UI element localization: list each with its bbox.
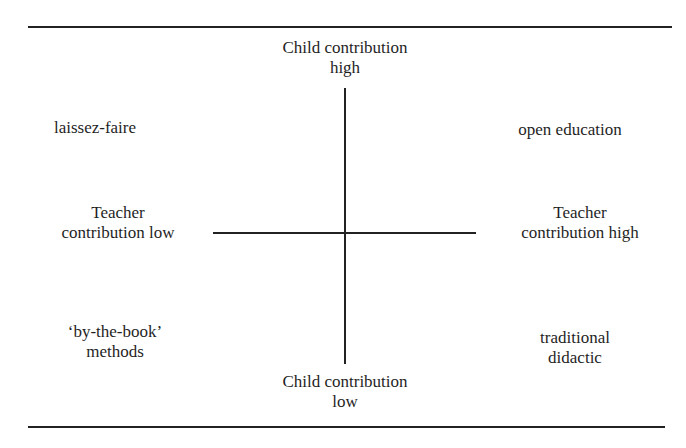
label-line: ‘by-the-book’ [40,322,190,342]
axis-label-child-high: Child contribution high [245,38,445,78]
label-line: methods [40,342,190,362]
quadrant-bottom-right: traditional didactic [500,328,650,368]
label-line: contribution low [28,223,208,243]
label-line: Teacher [480,203,680,223]
label-line: open education [485,120,655,140]
quadrant-top-left: laissez-faire [20,118,170,138]
bottom-rule [28,426,665,428]
label-line: low [245,392,445,412]
quadrant-bottom-left: ‘by-the-book’ methods [40,322,190,362]
axis-label-child-low: Child contribution low [245,372,445,412]
label-line: laissez-faire [20,118,170,138]
label-line: high [245,58,445,78]
top-rule [28,26,672,28]
vertical-axis [344,88,346,364]
label-line: didactic [500,348,650,368]
horizontal-axis [213,232,476,234]
quadrant-top-right: open education [485,120,655,140]
label-line: Child contribution [245,38,445,58]
axis-label-teacher-low: Teacher contribution low [28,203,208,243]
label-line: contribution high [480,223,680,243]
label-line: Teacher [28,203,208,223]
label-line: traditional [500,328,650,348]
axis-label-teacher-high: Teacher contribution high [480,203,680,243]
label-line: Child contribution [245,372,445,392]
